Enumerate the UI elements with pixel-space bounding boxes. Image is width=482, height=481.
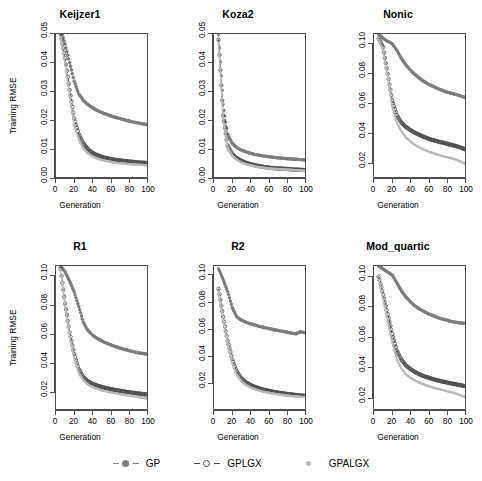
data-point xyxy=(225,333,227,335)
data-point xyxy=(391,105,393,107)
data-point xyxy=(73,357,75,359)
x-tick-label: 100 xyxy=(459,417,473,426)
data-point xyxy=(384,307,386,309)
y-tick-label: 0.06 xyxy=(359,92,367,108)
plot-area xyxy=(213,265,306,410)
data-point xyxy=(73,290,76,293)
panel-title: Keijzer1 xyxy=(0,8,160,20)
x-tick xyxy=(55,410,56,415)
data-point xyxy=(77,305,80,308)
legend-label: GP xyxy=(146,458,160,469)
data-point xyxy=(392,345,394,347)
plot-area xyxy=(373,265,466,410)
x-tick-label: 80 xyxy=(283,417,292,426)
x-tick xyxy=(147,178,148,183)
x-tick-label: 20 xyxy=(69,185,78,194)
y-axis: 0.000.010.020.030.040.05 xyxy=(42,33,55,178)
x-tick-label: 0 xyxy=(53,417,58,426)
data-point xyxy=(68,330,70,332)
data-point xyxy=(61,284,63,286)
x-tick-label: 40 xyxy=(246,417,255,426)
x-tick-label: 0 xyxy=(211,417,216,426)
y-tick-label: 0.10 xyxy=(359,265,367,281)
data-point xyxy=(76,366,78,368)
data-point xyxy=(65,69,67,71)
x-tick xyxy=(74,410,75,415)
y-tick-label: 0.06 xyxy=(199,318,207,334)
data-point xyxy=(73,293,76,296)
x-tick xyxy=(147,410,148,415)
y-tick-label: 0.08 xyxy=(199,291,207,307)
data-point xyxy=(218,57,220,59)
data-point xyxy=(235,371,237,373)
data-point xyxy=(378,282,380,284)
x-tick-label: 40 xyxy=(246,185,255,194)
y-tick-label: 0.10 xyxy=(359,32,367,48)
data-point xyxy=(225,135,227,137)
data-point xyxy=(72,353,74,355)
x-tick xyxy=(392,410,393,415)
y-tick-label: 0.06 xyxy=(41,323,49,339)
x-tick xyxy=(465,178,466,183)
y-tick-label: 0.08 xyxy=(41,294,49,310)
x-tick xyxy=(55,178,56,183)
x-tick-label: 60 xyxy=(424,185,433,194)
data-point xyxy=(70,344,72,346)
data-point xyxy=(232,364,234,366)
data-point xyxy=(393,348,395,350)
data-point xyxy=(383,302,385,304)
data-point xyxy=(377,278,379,280)
data-point xyxy=(220,87,222,89)
series-canvas xyxy=(214,34,305,177)
panel-title: R2 xyxy=(158,240,318,252)
y-tick-label: 0.02 xyxy=(199,109,207,125)
data-point xyxy=(80,314,83,317)
data-point xyxy=(391,342,393,344)
series-canvas xyxy=(214,266,305,409)
x-tick xyxy=(287,178,288,183)
x-tick-label: 40 xyxy=(406,185,415,194)
data-point xyxy=(67,323,69,325)
data-point xyxy=(77,136,79,138)
y-tick-label: 0.02 xyxy=(359,387,367,403)
x-tick-label: 60 xyxy=(106,417,115,426)
data-point xyxy=(63,298,65,300)
multi-panel-chart-figure: Keijzer10.000.010.020.030.040.0502040608… xyxy=(0,0,482,481)
y-tick-label: 0.04 xyxy=(359,122,367,138)
x-tick-label: 100 xyxy=(459,185,473,194)
legend-marker-gpalgx-icon xyxy=(296,458,322,468)
x-tick-label: 40 xyxy=(88,417,97,426)
chart-panel-keijzer1: Keijzer10.000.010.020.030.040.0502040608… xyxy=(0,0,160,230)
chart-legend: GPGPLGXGPALGX xyxy=(0,452,482,474)
data-point xyxy=(380,45,382,47)
data-point xyxy=(217,34,220,36)
data-point xyxy=(66,317,68,319)
data-point xyxy=(234,369,236,371)
data-point xyxy=(217,41,219,43)
x-tick-label: 20 xyxy=(387,417,396,426)
y-tick-label: 0.00 xyxy=(41,167,49,183)
x-tick-label: 0 xyxy=(371,417,376,426)
y-tick-label: 0.00 xyxy=(199,167,207,183)
chart-panel-r2: R20.020.040.060.080.10020406080100Genera… xyxy=(158,232,318,462)
legend-label: GPALGX xyxy=(329,458,369,469)
y-tick-label: 0.04 xyxy=(199,345,207,361)
y-tick-label: 0.01 xyxy=(199,138,207,154)
data-point xyxy=(380,290,382,292)
y-tick-label: 0.10 xyxy=(41,264,49,280)
data-point xyxy=(60,276,62,278)
data-point xyxy=(224,129,226,131)
y-tick-label: 0.05 xyxy=(41,22,49,38)
x-tick-label: 60 xyxy=(106,185,115,194)
chart-panel-mod_quartic: Mod_quartic0.020.040.060.080.10020406080… xyxy=(318,232,478,462)
data-point xyxy=(61,47,63,49)
chart-panel-nonic: Nonic0.020.040.060.080.10020406080100Gen… xyxy=(318,0,478,230)
x-tick-label: 60 xyxy=(264,185,273,194)
x-tick xyxy=(74,178,75,183)
panel-title: Nonic xyxy=(318,8,478,20)
legend-item-gplgx: GPLGX xyxy=(194,458,261,469)
series-line-gplgx xyxy=(61,34,148,163)
data-point xyxy=(60,41,62,43)
x-tick-label: 100 xyxy=(299,185,313,194)
x-tick xyxy=(232,178,233,183)
